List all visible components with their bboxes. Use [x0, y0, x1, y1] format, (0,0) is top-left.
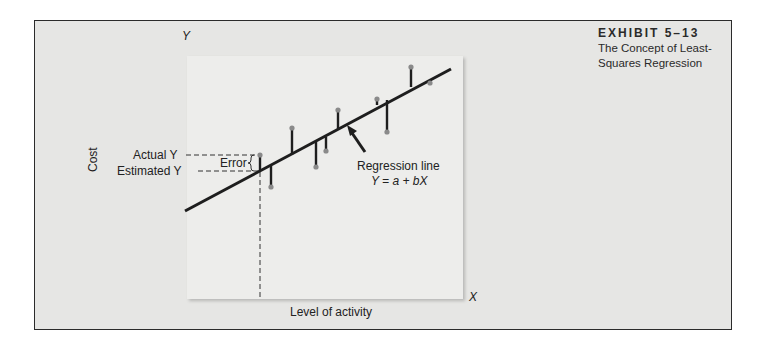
estimated-y-label: Estimated Y: [117, 164, 181, 178]
regression-equation: Y = a + bX: [371, 174, 428, 188]
actual-y-label: Actual Y: [133, 148, 177, 162]
x-axis-letter: X: [469, 290, 477, 304]
arrow-icon: [352, 133, 365, 152]
regression-line: [185, 69, 451, 211]
regression-line-label: Regression line: [357, 159, 440, 173]
y-axis-letter: Y: [182, 29, 190, 43]
exhibit-title: The Concept of Least-Squares Regression: [598, 41, 738, 71]
x-axis-title: Level of activity: [290, 305, 372, 319]
error-brace: [248, 155, 254, 171]
exhibit-number: EXHIBIT 5–13: [598, 26, 738, 40]
error-label: Error: [220, 156, 247, 170]
y-axis-title: Cost: [86, 147, 100, 172]
exhibit-caption: EXHIBIT 5–13 The Concept of Least-Square…: [598, 26, 738, 71]
